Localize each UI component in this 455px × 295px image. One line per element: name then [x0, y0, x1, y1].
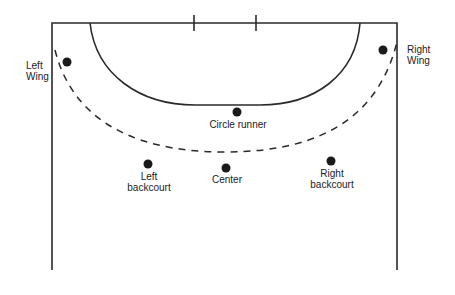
label-line: Wing	[407, 55, 430, 66]
label-line: Wing	[26, 71, 49, 82]
player-center	[222, 164, 231, 173]
player-left-backcourt	[144, 160, 153, 169]
player-circle-runner	[233, 108, 242, 117]
label-line: backcourt	[309, 179, 355, 190]
player-left-wing	[63, 58, 72, 67]
label-line: Circle runner	[208, 119, 268, 130]
player-right-backcourt	[327, 157, 336, 166]
handball-court	[0, 0, 455, 295]
label-line: Right	[407, 44, 430, 55]
free-throw-line	[55, 42, 397, 152]
label-line: Right	[309, 168, 355, 179]
label-line: Left	[26, 60, 49, 71]
label-line: Left	[126, 171, 172, 182]
player-right-wing	[379, 46, 388, 55]
label-left-backcourt: Left backcourt	[126, 171, 172, 193]
label-circle-runner: Circle runner	[208, 119, 268, 130]
label-right-backcourt: Right backcourt	[309, 168, 355, 190]
label-center: Center	[208, 174, 246, 185]
court-boundary	[52, 23, 397, 270]
label-left-wing: Left Wing	[26, 60, 49, 82]
label-line: Center	[208, 174, 246, 185]
label-line: backcourt	[126, 182, 172, 193]
label-right-wing: Right Wing	[407, 44, 430, 66]
goal-area-line	[90, 23, 360, 105]
